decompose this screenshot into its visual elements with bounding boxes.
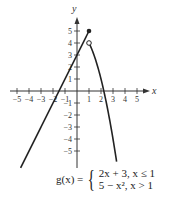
closed-point bbox=[87, 29, 92, 34]
x-axis-label: x bbox=[151, 85, 157, 96]
svg-text:−3: −3 bbox=[63, 123, 72, 132]
svg-text:−5: −5 bbox=[63, 147, 72, 156]
svg-text:5: 5 bbox=[68, 27, 72, 36]
svg-text:1: 1 bbox=[87, 95, 91, 104]
equation-lhs: g(x) = bbox=[56, 173, 83, 185]
svg-text:−1: −1 bbox=[63, 99, 72, 108]
svg-text:−4: −4 bbox=[25, 95, 34, 104]
equation-cases: 2x + 3, x ≤ 1 5 − x², x > 1 bbox=[99, 167, 155, 191]
x-axis-arrow-icon bbox=[143, 89, 150, 94]
y-axis-arrow-icon bbox=[75, 17, 80, 24]
open-point bbox=[87, 41, 92, 46]
svg-text:−4: −4 bbox=[63, 135, 72, 144]
svg-text:−5: −5 bbox=[13, 95, 22, 104]
brace-icon: { bbox=[88, 166, 95, 192]
y-axis-label: y bbox=[71, 3, 77, 14]
x-ticks: −5−4−3−2−112345 bbox=[13, 88, 139, 104]
function-definition: g(x) = { 2x + 3, x ≤ 1 5 − x², x > 1 bbox=[56, 166, 155, 192]
equation-case-1: 2x + 3, x ≤ 1 bbox=[99, 167, 155, 179]
svg-text:3: 3 bbox=[111, 95, 115, 104]
svg-text:5: 5 bbox=[135, 95, 139, 104]
svg-text:1: 1 bbox=[68, 75, 72, 84]
svg-text:4: 4 bbox=[123, 95, 127, 104]
svg-text:2: 2 bbox=[99, 95, 103, 104]
svg-text:−2: −2 bbox=[63, 111, 72, 120]
svg-text:4: 4 bbox=[68, 39, 72, 48]
svg-text:−3: −3 bbox=[37, 95, 46, 104]
svg-text:3: 3 bbox=[68, 51, 72, 60]
equation-case-2: 5 − x², x > 1 bbox=[99, 179, 155, 191]
